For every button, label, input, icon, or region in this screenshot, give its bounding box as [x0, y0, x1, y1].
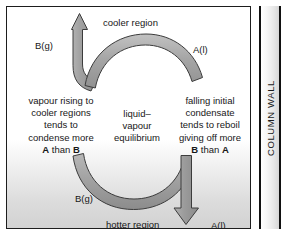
species-label-b-gas-bottom: B(g) — [75, 193, 93, 204]
hotter-region-label: hotter region — [106, 219, 159, 229]
right-line-3: tends to reboil — [167, 119, 251, 131]
right-line-4: giving off more — [167, 132, 251, 144]
center-line-3: equilibrium — [107, 132, 167, 144]
column-wall: COLUMN WALL — [259, 6, 281, 229]
distillation-equilibrium-figure: cooler region hotter region B(g) A(l) B(… — [0, 0, 288, 243]
species-label-a-liquid-bottom: A(l) — [211, 220, 226, 229]
top-condensation-arc — [85, 34, 203, 88]
cooler-region-label: cooler region — [103, 17, 158, 28]
right-line-1: falling initial — [167, 95, 251, 107]
diagram-panel: cooler region hotter region B(g) A(l) B(… — [6, 6, 251, 229]
left-bold-last: B — [73, 144, 80, 155]
left-emphasis-middle: than — [49, 144, 73, 155]
right-annotation-block: falling initial condensate tends to rebo… — [167, 95, 251, 156]
center-annotation-block: liquid– vapour equilibrium — [107, 108, 167, 145]
left-emphasis-line: A than B — [15, 144, 107, 156]
species-label-b-gas-top: B(g) — [35, 40, 53, 51]
center-line-2: vapour — [107, 120, 167, 132]
right-line-2: condensate — [167, 107, 251, 119]
left-line-3: tends to — [15, 119, 107, 131]
left-annotation-block: vapour rising to cooler regions tends to… — [15, 95, 107, 156]
center-line-1: liquid– — [107, 108, 167, 120]
left-line-4: condense more — [15, 132, 107, 144]
species-label-a-liquid-top: A(l) — [193, 44, 208, 55]
column-wall-label: COLUMN WALL — [265, 80, 276, 156]
right-bold-last: A — [222, 144, 229, 155]
right-emphasis-middle: than — [198, 144, 222, 155]
left-line-2: cooler regions — [15, 107, 107, 119]
left-line-1: vapour rising to — [15, 95, 107, 107]
right-emphasis-line: B than A — [167, 144, 251, 156]
